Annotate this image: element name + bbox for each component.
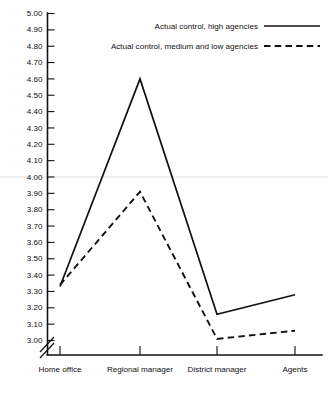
y-tick-label: 3.90 <box>27 189 43 198</box>
chart-canvas: 5.004.904.804.704.604.504.404.304.204.10… <box>0 0 328 395</box>
y-tick-label: 4.00 <box>27 173 43 182</box>
y-tick-label: 3.70 <box>27 222 43 231</box>
y-tick-label: 4.90 <box>27 25 43 34</box>
series-line-high-agencies <box>60 79 295 314</box>
y-tick-label: 4.30 <box>27 124 43 133</box>
x-tick-label: Regional manager <box>107 365 173 374</box>
x-tick-label: District manager <box>188 365 247 374</box>
series-line-medium-low-agencies <box>60 192 295 339</box>
y-tick-label: 4.20 <box>27 140 43 149</box>
line-chart: 5.004.904.804.704.604.504.404.304.204.10… <box>0 0 328 395</box>
x-tick-label: Home office <box>38 365 82 374</box>
y-tick-label: 3.30 <box>27 287 43 296</box>
y-tick-label: 4.70 <box>27 58 43 67</box>
y-tick-label: 3.10 <box>27 320 43 329</box>
y-tick-label: 4.50 <box>27 91 43 100</box>
x-axis-labels: Home officeRegional managerDistrict mana… <box>38 365 307 374</box>
y-axis-ticks: 5.004.904.804.704.604.504.404.304.204.10… <box>27 9 55 345</box>
series-group <box>60 79 295 339</box>
y-tick-label: 4.80 <box>27 42 43 51</box>
legend-label-high-agencies: Actual control, high agencies <box>155 22 258 31</box>
y-tick-label: 5.00 <box>27 9 43 18</box>
y-tick-label: 3.40 <box>27 271 43 280</box>
y-tick-label: 4.60 <box>27 75 43 84</box>
x-axis-ticks <box>60 346 295 355</box>
y-tick-label: 3.50 <box>27 254 43 263</box>
y-tick-label: 3.00 <box>27 336 43 345</box>
y-tick-label: 3.20 <box>27 303 43 312</box>
legend-label-medium-low-agencies: Actual control, medium and low agencies <box>111 42 258 51</box>
y-tick-label: 3.80 <box>27 205 43 214</box>
legend: Actual control, high agencies Actual con… <box>111 22 320 51</box>
y-tick-label: 3.60 <box>27 238 43 247</box>
y-tick-label: 4.40 <box>27 107 43 116</box>
x-tick-label: Agents <box>282 365 307 374</box>
y-tick-label: 4.10 <box>27 156 43 165</box>
